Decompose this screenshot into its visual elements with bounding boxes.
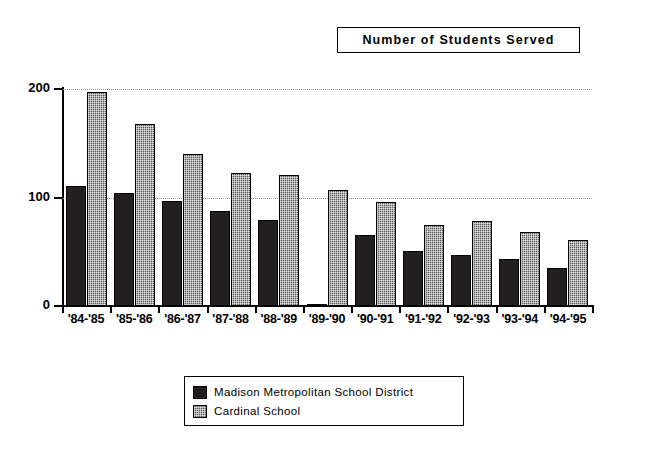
- x-tick-mark: [62, 305, 64, 313]
- bar-cardinal: [520, 232, 540, 306]
- x-tick-mark: [255, 305, 257, 313]
- bar-madison: [307, 304, 327, 306]
- legend-swatch-cardinal-icon: [193, 405, 207, 418]
- legend-item: Madison Metropolitan School District: [193, 383, 463, 401]
- x-tick-label: '94-'95: [544, 312, 592, 326]
- x-tick-label: '90-'91: [351, 312, 399, 326]
- x-tick-mark: [496, 305, 498, 313]
- bar-cardinal: [87, 92, 107, 306]
- bar-madison: [451, 255, 471, 306]
- bar-cardinal: [568, 240, 588, 306]
- gridline: [62, 89, 592, 90]
- y-tick-mark: [54, 197, 63, 199]
- bar-cardinal: [135, 124, 155, 306]
- x-tick-mark: [592, 305, 594, 313]
- x-tick-mark: [110, 305, 112, 313]
- legend-swatch-madison-icon: [193, 386, 207, 399]
- bar-madison: [66, 186, 86, 306]
- bar-cardinal: [472, 221, 492, 306]
- x-tick-label: '92-'93: [447, 312, 495, 326]
- legend-label-madison: Madison Metropolitan School District: [214, 386, 413, 398]
- chart-legend: Madison Metropolitan School District Car…: [184, 376, 464, 426]
- x-tick-label: '85-'86: [110, 312, 158, 326]
- chart-title-box: Number of Students Served: [337, 27, 580, 53]
- x-tick-mark: [303, 305, 305, 313]
- y-tick-label: 0: [2, 297, 50, 312]
- bar-madison: [403, 251, 423, 306]
- bar-madison: [162, 201, 182, 306]
- x-tick-label: '89-'90: [303, 312, 351, 326]
- bar-madison: [547, 268, 567, 306]
- x-tick-mark: [399, 305, 401, 313]
- x-tick-label: '88-'89: [255, 312, 303, 326]
- y-tick-mark: [54, 88, 63, 90]
- bar-cardinal: [231, 173, 251, 306]
- x-tick-label: '93-'94: [496, 312, 544, 326]
- y-tick-label: 200: [2, 80, 50, 95]
- bar-cardinal: [279, 175, 299, 306]
- legend-item: Cardinal School: [193, 402, 463, 420]
- x-tick-label: '91-'92: [399, 312, 447, 326]
- bar-madison: [499, 259, 519, 306]
- y-axis-labels: 0100200: [0, 0, 50, 459]
- plot-area: [62, 89, 592, 306]
- page-title: Number of Students Served: [362, 33, 554, 47]
- bar-cardinal: [183, 154, 203, 306]
- bar-madison: [210, 211, 230, 306]
- x-tick-mark: [544, 305, 546, 313]
- x-tick-label: '87-'88: [207, 312, 255, 326]
- bar-madison: [114, 193, 134, 306]
- legend-label-cardinal: Cardinal School: [214, 405, 300, 417]
- x-tick-mark: [158, 305, 160, 313]
- bar-cardinal: [424, 225, 444, 306]
- x-tick-mark: [207, 305, 209, 313]
- bar-madison: [355, 235, 375, 306]
- y-tick-label: 100: [2, 189, 50, 204]
- bar-cardinal: [328, 190, 348, 306]
- bar-madison: [258, 220, 278, 306]
- x-tick-label: '86-'87: [158, 312, 206, 326]
- x-tick-label: '84-'85: [62, 312, 110, 326]
- x-tick-mark: [447, 305, 449, 313]
- x-tick-mark: [351, 305, 353, 313]
- bar-cardinal: [376, 202, 396, 306]
